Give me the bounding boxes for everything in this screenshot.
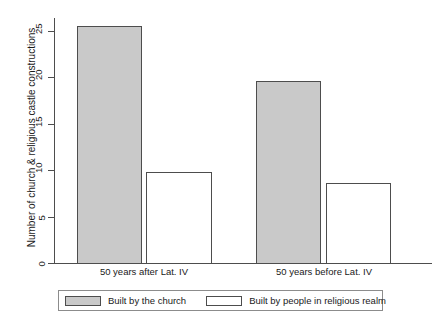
y-tick-text-15: 15 [34, 116, 44, 127]
y-tick-mark-15 [48, 124, 54, 125]
legend-label-church: Built by the church [108, 295, 186, 306]
x-group-label-before: 50 years before Lat. IV [254, 266, 394, 277]
y-tick-label-15: 15 [0, 117, 44, 127]
y-tick-mark-10 [48, 170, 54, 171]
y-tick-mark-5 [48, 217, 54, 218]
legend-entry-church: Built by the church [65, 295, 186, 306]
legend: Built by the church Built by people in r… [58, 290, 383, 311]
y-tick-mark-0 [48, 263, 54, 264]
y-axis-title: Number of church & religious castle cons… [26, 13, 37, 263]
legend-entry-people: Built by people in religious realm [206, 295, 386, 306]
bar-group2-people [326, 183, 391, 264]
x-group-label-after: 50 years after Lat. IV [74, 266, 214, 277]
y-axis-line [54, 18, 55, 264]
bar-group2-church [256, 81, 321, 264]
y-tick-label-5: 5 [0, 213, 44, 223]
bar-group1-church [77, 26, 142, 264]
y-tick-mark-20 [48, 77, 54, 78]
y-tick-label-25: 25 [0, 24, 44, 34]
y-tick-label-20: 20 [0, 70, 44, 80]
y-tick-text-20: 20 [34, 69, 44, 80]
y-tick-text-0: 0 [37, 261, 47, 266]
y-tick-label-10: 10 [0, 163, 44, 173]
y-tick-text-10: 10 [34, 162, 44, 173]
legend-label-people: Built by people in religious realm [249, 295, 386, 306]
y-tick-mark-25 [48, 31, 54, 32]
chart-screenshot: Number of church & religious castle cons… [0, 0, 439, 326]
plot-area: Number of church & religious castle cons… [0, 0, 439, 326]
gray-swatch-icon [65, 296, 101, 306]
y-tick-label-0: 0 [0, 259, 44, 269]
white-swatch-icon [206, 296, 242, 306]
bar-group1-people [146, 172, 212, 264]
y-tick-text-5: 5 [37, 215, 47, 220]
y-tick-text-25: 25 [34, 23, 44, 34]
